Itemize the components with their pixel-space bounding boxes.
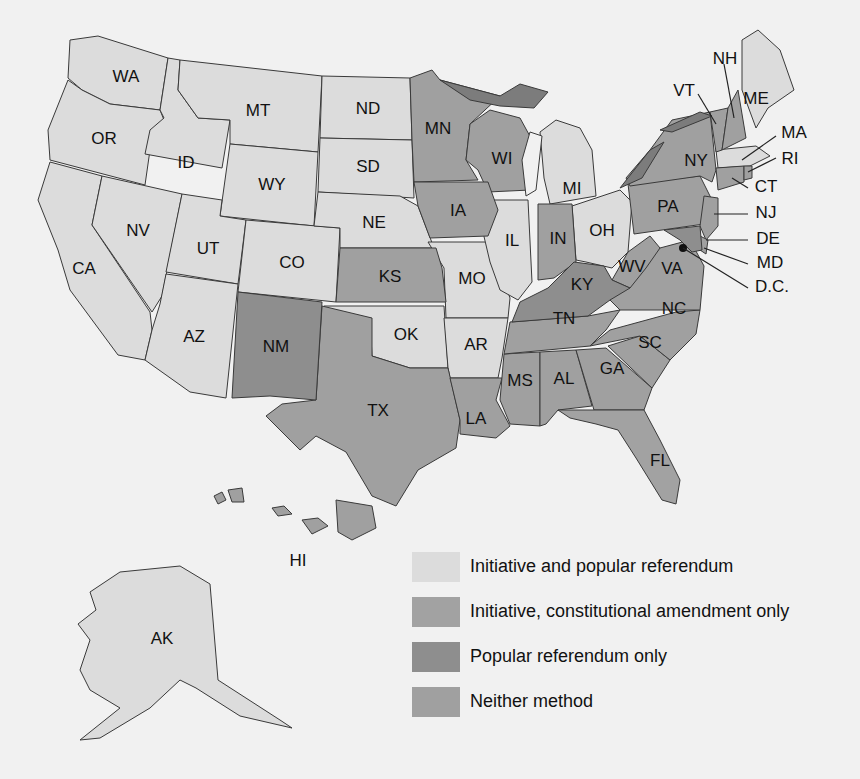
legend-label: Popular referendum only xyxy=(470,646,667,667)
label-mn: MN xyxy=(425,119,451,138)
legend-swatch xyxy=(412,597,460,627)
label-il: IL xyxy=(505,231,519,250)
label-va: VA xyxy=(661,259,683,278)
label-md: MD xyxy=(757,253,783,272)
label-wi: WI xyxy=(492,149,513,168)
label-nj: NJ xyxy=(756,203,777,222)
legend-swatch xyxy=(412,552,460,582)
hi-island-3 xyxy=(272,506,292,516)
label-wa: WA xyxy=(113,67,140,86)
label-mi: MI xyxy=(563,179,582,198)
label-me: ME xyxy=(743,89,769,108)
label-nd: ND xyxy=(356,99,381,118)
label-ct: CT xyxy=(755,177,778,196)
legend-label: Initiative and popular referendum xyxy=(470,556,733,577)
label-id: ID xyxy=(178,153,195,172)
label-vt: VT xyxy=(673,81,695,100)
label-ia: IA xyxy=(450,201,467,220)
label-ar: AR xyxy=(464,335,488,354)
legend-item-popular-referendum-only: Popular referendum only xyxy=(412,634,789,679)
state-me xyxy=(742,30,794,128)
label-sc: SC xyxy=(638,333,662,352)
label-tx: TX xyxy=(367,401,389,420)
state-nj xyxy=(700,196,718,240)
label-tn: TN xyxy=(553,309,576,328)
label-ks: KS xyxy=(379,267,402,286)
label-ok: OK xyxy=(394,325,419,344)
map-legend: Initiative and popular referendum Initia… xyxy=(412,544,789,724)
label-ri: RI xyxy=(782,149,799,168)
label-ky: KY xyxy=(571,275,594,294)
label-pa: PA xyxy=(657,197,679,216)
hi-island-2 xyxy=(302,518,328,534)
label-sd: SD xyxy=(356,157,380,176)
label-dc: D.C. xyxy=(755,277,789,296)
label-ak: AK xyxy=(151,629,174,648)
legend-label: Neither method xyxy=(470,691,593,712)
label-la: LA xyxy=(466,409,487,428)
hi-island-5 xyxy=(214,492,226,504)
label-al: AL xyxy=(554,369,575,388)
hi-island-4 xyxy=(228,488,244,502)
label-az: AZ xyxy=(183,327,205,346)
state-ri xyxy=(744,166,752,180)
state-ct xyxy=(716,166,744,190)
label-mo: MO xyxy=(458,269,485,288)
legend-item-initiative-constitutional-only: Initiative, constitutional amendment onl… xyxy=(412,589,789,634)
label-ne: NE xyxy=(362,213,386,232)
label-fl: FL xyxy=(650,451,670,470)
legend-swatch xyxy=(412,687,460,717)
label-co: CO xyxy=(279,253,305,272)
state-ak xyxy=(78,566,292,740)
label-nm: NM xyxy=(263,337,289,356)
legend-label: Initiative, constitutional amendment onl… xyxy=(470,601,789,622)
label-wv: WV xyxy=(618,257,646,276)
state-hi xyxy=(336,500,376,540)
label-nh: NH xyxy=(713,49,738,68)
label-oh: OH xyxy=(589,221,615,240)
label-nc: NC xyxy=(662,299,687,318)
label-ma: MA xyxy=(781,123,807,142)
label-ny: NY xyxy=(684,151,708,170)
label-ca: CA xyxy=(72,259,96,278)
label-ms: MS xyxy=(507,371,533,390)
label-de: DE xyxy=(756,229,780,248)
label-hi: HI xyxy=(290,551,307,570)
legend-item-initiative-and-referendum: Initiative and popular referendum xyxy=(412,544,789,589)
label-or: OR xyxy=(91,129,117,148)
label-wy: WY xyxy=(258,175,285,194)
legend-swatch xyxy=(412,642,460,672)
label-in: IN xyxy=(550,229,567,248)
label-ga: GA xyxy=(600,359,625,378)
legend-item-neither: Neither method xyxy=(412,679,789,724)
label-nv: NV xyxy=(126,221,150,240)
label-ut: UT xyxy=(197,239,220,258)
label-mt: MT xyxy=(246,101,271,120)
